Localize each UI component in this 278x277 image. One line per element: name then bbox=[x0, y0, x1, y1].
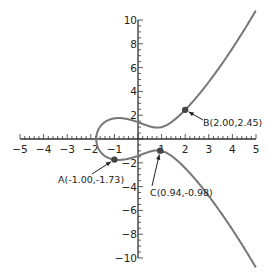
point-b bbox=[182, 107, 188, 113]
point-a bbox=[111, 156, 117, 162]
x-tick-label: 5 bbox=[253, 143, 260, 155]
point-label-a: A(-1.00,-1.73) bbox=[58, 174, 124, 185]
x-tick-label: −1 bbox=[107, 143, 122, 155]
point-label-b: B(2.00,2.45) bbox=[203, 117, 262, 128]
y-tick-label: 4 bbox=[130, 85, 137, 97]
x-tick-label: 4 bbox=[229, 143, 236, 155]
arrowhead-icon bbox=[106, 162, 111, 167]
x-tick-label: −4 bbox=[36, 143, 52, 155]
y-tick-label: 8 bbox=[130, 38, 137, 50]
y-tick-label: −8 bbox=[122, 228, 137, 240]
x-tick-label: 2 bbox=[182, 143, 189, 155]
y-tick-label: −6 bbox=[122, 204, 138, 216]
elliptic-curve-chart: −5−4−3−2−112345−10−8−6−4−2246810 A(-1.00… bbox=[0, 0, 278, 277]
point-label-c: C(0.94,-0.98) bbox=[150, 187, 213, 198]
y-tick-label: −10 bbox=[115, 252, 137, 264]
x-tick-label: −3 bbox=[59, 143, 74, 155]
y-tick-label: 6 bbox=[130, 62, 137, 74]
axes: −5−4−3−2−112345−10−8−6−4−2246810 bbox=[12, 14, 259, 264]
y-tick-label: 10 bbox=[124, 14, 137, 26]
x-tick-label: −5 bbox=[12, 143, 27, 155]
curve-lower-branch bbox=[96, 139, 256, 267]
x-tick-label: 3 bbox=[205, 143, 212, 155]
point-c bbox=[157, 147, 163, 153]
arrowhead-icon bbox=[156, 155, 160, 160]
